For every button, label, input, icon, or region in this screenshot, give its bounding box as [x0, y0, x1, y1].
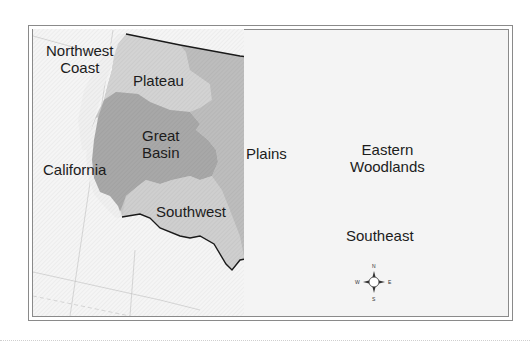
label-northwest: Northwest — [46, 42, 114, 59]
label-coast: Coast — [46, 59, 114, 76]
bottom-divider — [0, 340, 530, 342]
label-plains: Plains — [246, 145, 287, 162]
compass-n: N — [372, 263, 376, 269]
label-southwest: Southwest — [156, 203, 226, 220]
label-eastern: Eastern — [350, 141, 425, 158]
label-woodlands: Woodlands — [350, 158, 425, 175]
label-northwest-coast: Northwest Coast — [46, 42, 114, 76]
compass-w: W — [355, 279, 360, 285]
label-california: California — [43, 161, 106, 178]
label-eastern-woodlands: Eastern Woodlands — [350, 141, 425, 175]
label-basin: Basin — [142, 144, 180, 161]
label-great-basin: Great Basin — [142, 127, 180, 161]
label-southeast: Southeast — [346, 227, 414, 244]
label-plateau: Plateau — [133, 72, 184, 89]
label-great: Great — [142, 127, 180, 144]
compass-e: E — [388, 279, 391, 285]
compass-s: S — [372, 296, 375, 302]
